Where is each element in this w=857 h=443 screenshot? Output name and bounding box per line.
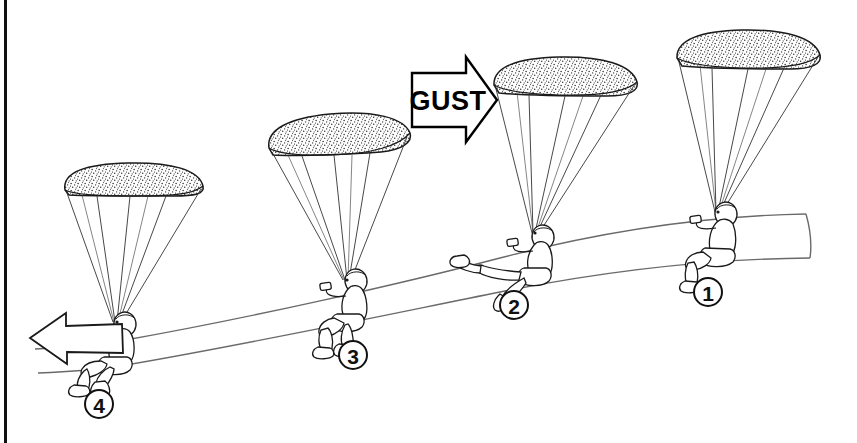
paraglider-position-4 (65, 163, 204, 398)
canopy-4 (65, 163, 204, 196)
marker-2-label: 2 (508, 295, 520, 318)
position-markers: 1 2 3 4 (85, 278, 722, 418)
suspension-lines-3 (272, 137, 407, 280)
pilot-4 (69, 310, 139, 398)
riser-knot-1 (716, 210, 719, 213)
marker-4[interactable]: 4 (85, 390, 113, 418)
canopy-2 (494, 57, 637, 96)
gust-arrow-label: GUST (409, 86, 486, 116)
marker-3-label: 3 (347, 345, 359, 368)
suspension-lines-1 (679, 57, 818, 212)
canopy-1 (677, 30, 820, 69)
riser-knot-2 (533, 231, 536, 234)
paraglider-gust-diagram: GUST 1 2 3 4 (0, 0, 857, 443)
marker-1-label: 1 (702, 282, 714, 305)
paraglider-position-3 (269, 113, 411, 359)
marker-2[interactable]: 2 (500, 291, 528, 319)
suspension-lines-4 (67, 189, 201, 322)
gust-arrow: GUST (409, 57, 497, 142)
diagram-canvas: GUST 1 2 3 4 (0, 0, 857, 443)
suspension-lines-2 (496, 84, 635, 233)
marker-1[interactable]: 1 (694, 278, 722, 306)
canopy-3 (269, 113, 411, 155)
marker-3[interactable]: 3 (339, 341, 367, 369)
riser-knot-4 (115, 320, 118, 323)
riser-knot-3 (345, 278, 348, 281)
marker-4-label: 4 (93, 394, 105, 417)
paraglider-position-1 (677, 30, 820, 293)
